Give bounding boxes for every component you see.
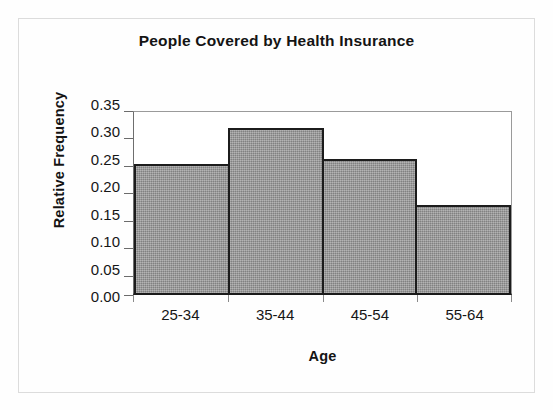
x-tick-mark (417, 295, 418, 302)
y-axis-tick-labels: 0.35 0.30 0.25 0.20 0.15 0.10 0.05 0.00 (64, 104, 120, 296)
y-tick-label: 0.15 (64, 206, 120, 221)
bar-25-34 (134, 164, 230, 293)
y-tick-label: 0.05 (64, 261, 120, 276)
y-tick-label: 0.00 (64, 289, 120, 304)
y-tick-mark (124, 193, 133, 194)
y-tick-mark (124, 295, 133, 296)
plot-area (133, 111, 512, 295)
y-tick-mark (124, 276, 133, 277)
x-axis-title: Age (133, 348, 512, 364)
x-tick-label: 45-54 (323, 306, 418, 323)
x-tick-mark (511, 295, 512, 302)
y-tick-label: 0.10 (64, 234, 120, 249)
x-tick-mark (228, 295, 229, 302)
y-tick-mark (124, 221, 133, 222)
y-tick-mark (124, 111, 133, 112)
y-tick-label: 0.20 (64, 179, 120, 194)
x-axis-tick-labels: 25-34 35-44 45-54 55-64 (133, 306, 512, 323)
bar-55-64 (415, 205, 511, 293)
y-tick-label: 0.35 (64, 97, 120, 112)
x-tick-label: 55-64 (417, 306, 512, 323)
bar-45-54 (322, 159, 418, 293)
x-axis-tick-marks (133, 295, 513, 302)
chart-page: People Covered by Health Insurance Relat… (0, 0, 553, 410)
x-tick-label: 35-44 (228, 306, 323, 323)
y-tick-label: 0.25 (64, 151, 120, 166)
bar-series (134, 112, 511, 293)
bar-35-44 (228, 128, 324, 293)
y-tick-mark (124, 248, 133, 249)
x-tick-mark (133, 295, 134, 302)
y-tick-label: 0.30 (64, 124, 120, 139)
x-tick-mark (323, 295, 324, 302)
y-tick-mark (124, 166, 133, 167)
chart-title: People Covered by Health Insurance (0, 32, 553, 50)
x-tick-label: 25-34 (133, 306, 228, 323)
y-tick-mark (124, 138, 133, 139)
